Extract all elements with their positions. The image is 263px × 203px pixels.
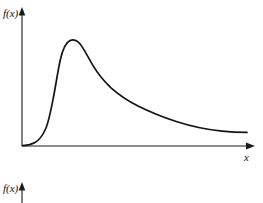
- density-figure: f(x) x f(x): [0, 0, 263, 203]
- y-axis-top: [19, 7, 26, 146]
- panel-top: f(x) x: [3, 7, 255, 163]
- y-axis-arrowhead-icon: [19, 7, 26, 16]
- y-axis-label-bottom: f(x): [3, 182, 19, 195]
- figure-container: f(x) x f(x): [0, 0, 263, 203]
- x-axis-top: [22, 143, 255, 150]
- panel-bottom: f(x): [3, 182, 25, 203]
- y-axis-arrowhead-icon-bottom: [19, 182, 26, 191]
- x-axis-arrowhead-icon: [246, 143, 255, 150]
- y-axis-label-top: f(x): [3, 7, 19, 20]
- x-axis-label-top: x: [243, 151, 249, 163]
- density-curve-top: [23, 40, 248, 146]
- y-axis-bottom: [19, 182, 26, 203]
